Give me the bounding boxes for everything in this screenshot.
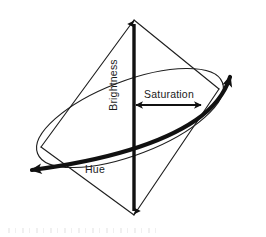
cone-edge-lower-left (41, 147, 134, 215)
hsb-cone-illustration: Brightness Saturation Hue (0, 0, 266, 237)
brightness-label: Brightness (107, 59, 119, 111)
hue-label: Hue (85, 163, 105, 175)
hsb-cone-diagram: Brightness Saturation Hue (0, 0, 266, 237)
cone-edge-upper-left (41, 20, 134, 147)
cone-edge-upper-right (134, 20, 219, 89)
bottom-scan-artifact (8, 228, 158, 233)
hue-arc-path (32, 77, 230, 170)
saturation-label: Saturation (144, 88, 194, 100)
cone-edge-lower-right (134, 89, 219, 215)
